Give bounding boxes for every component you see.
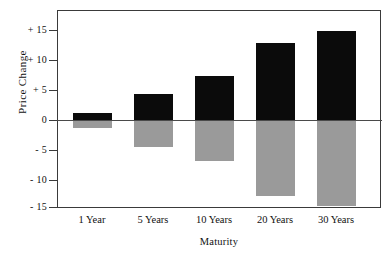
bar-positive-20-years — [256, 43, 295, 120]
y-tick-label-neg10: - 10 — [30, 175, 47, 185]
y-tick-mark — [49, 207, 57, 208]
y-tick-label-5: + 5 — [33, 85, 47, 95]
y-axis-title: Price Change — [16, 22, 28, 142]
y-tick-mark — [49, 120, 57, 121]
y-tick-mark — [49, 90, 57, 91]
bar-chart-figure: + 15 + 10 + 5 0 - 5 - 10 - 15 Price Chan… — [0, 0, 390, 261]
x-tick-label-30-years: 30 Years — [301, 214, 371, 226]
bar-positive-30-years — [317, 31, 356, 120]
y-tick-label-15: + 15 — [28, 25, 47, 35]
bar-positive-10-years — [195, 76, 234, 120]
bar-negative-5-years — [134, 121, 173, 147]
bar-negative-20-years — [256, 121, 295, 196]
y-tick-mark — [49, 150, 57, 151]
x-tick-label-20-years: 20 Years — [240, 214, 310, 226]
y-tick-label-neg15: - 15 — [30, 202, 47, 212]
bar-negative-10-years — [195, 121, 234, 161]
x-tick-label-10-years: 10 Years — [179, 214, 249, 226]
bar-negative-1-year — [73, 121, 112, 128]
y-tick-mark — [49, 60, 57, 61]
y-tick-label-0: 0 — [42, 115, 47, 125]
x-tick-label-1-year: 1 Year — [57, 214, 127, 226]
bar-positive-1-year — [73, 113, 112, 120]
y-tick-mark — [49, 30, 57, 31]
y-tick-label-10: + 10 — [28, 55, 47, 65]
y-tick-label-neg5: - 5 — [35, 145, 47, 155]
y-tick-mark — [49, 180, 57, 181]
bar-negative-30-years — [317, 121, 356, 206]
x-axis-title: Maturity — [57, 236, 381, 247]
x-tick-label-5-years: 5 Years — [118, 214, 188, 226]
bar-positive-5-years — [134, 94, 173, 120]
